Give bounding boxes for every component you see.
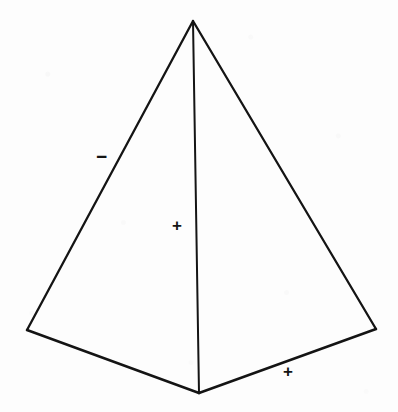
edge-apex-to-base-front — [193, 21, 199, 393]
edge-base-left-to-front — [27, 330, 199, 393]
plus-sign-label-bottom-right-edge: + — [283, 363, 293, 380]
pyramid-diagram — [0, 0, 398, 412]
figure-canvas: − + + — [0, 0, 398, 412]
plus-sign-label-center-ridge: + — [172, 217, 182, 234]
edge-base-front-to-right — [199, 329, 376, 393]
edge-apex-to-base-left — [27, 21, 193, 330]
edge-apex-to-base-right — [193, 21, 376, 329]
minus-sign-label-left-face: − — [96, 147, 107, 166]
